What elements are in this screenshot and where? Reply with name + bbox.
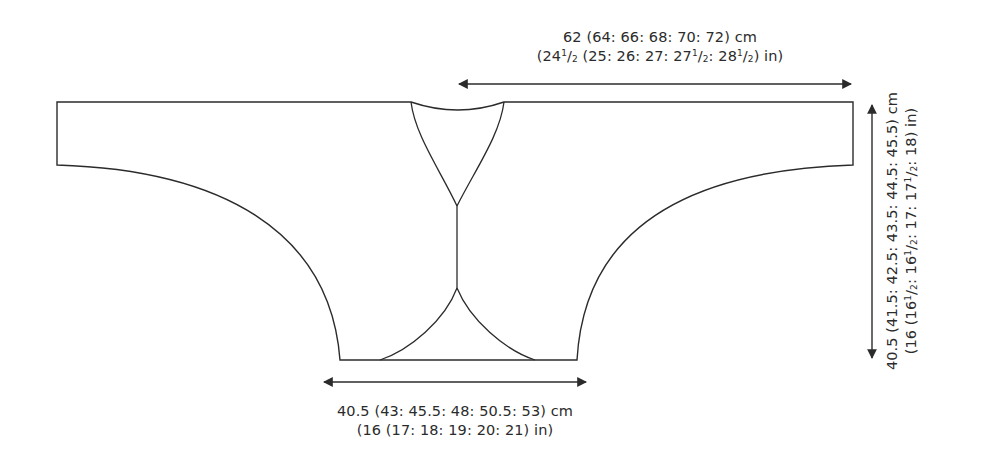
neckline-right-edge [457, 102, 504, 206]
half-width-in: (241/2 (25: 26: 27: 271/2: 281/2) in) [440, 47, 880, 66]
garment-schematic [0, 0, 984, 463]
length-label: 40.5 (41.5: 42.5: 43.5: 44.5: 45.5) cm (… [883, 92, 921, 370]
hem-width-label: 40.5 (43: 45.5: 48: 50.5: 53) cm (16 (17… [290, 402, 620, 440]
front-curve-left [380, 288, 457, 360]
half-width-cm: 62 (64: 66: 68: 70: 72) cm [440, 28, 880, 47]
half-width-label: 62 (64: 66: 68: 70: 72) cm (241/2 (25: 2… [440, 28, 880, 66]
length-cm: 40.5 (41.5: 42.5: 43.5: 44.5: 45.5) cm [883, 92, 902, 370]
front-curve-right [457, 288, 535, 360]
garment-outline [57, 102, 853, 360]
neckline-left-edge [411, 102, 457, 206]
length-in: (16 (161/2: 161/2: 17: 171/2: 18) in) [902, 92, 921, 370]
hem-width-cm: 40.5 (43: 45.5: 48: 50.5: 53) cm [290, 402, 620, 421]
hem-width-in: (16 (17: 18: 19: 20: 21) in) [290, 421, 620, 440]
